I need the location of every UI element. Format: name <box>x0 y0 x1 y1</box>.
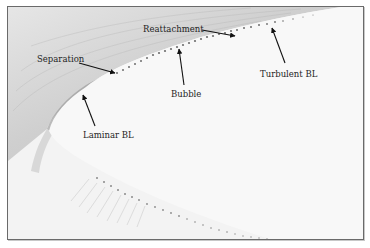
label-laminar-bl: Laminar BL <box>83 130 134 140</box>
flow-visualization-figure: Separation Reattachment Bubble Laminar B… <box>7 6 364 240</box>
airfoil-flow-image <box>8 7 364 240</box>
label-turbulent-bl: Turbulent BL <box>260 69 317 79</box>
label-bubble: Bubble <box>171 89 201 99</box>
label-reattachment: Reattachment <box>143 24 204 34</box>
label-separation: Separation <box>37 54 84 64</box>
